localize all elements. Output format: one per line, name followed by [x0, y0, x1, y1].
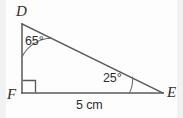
vertex-label-E: E	[167, 85, 176, 100]
right-edge-shade	[177, 0, 183, 118]
angle-label-D: 65°	[25, 35, 44, 48]
geometry-figure: D F E 65° 25° 5 cm	[0, 0, 183, 118]
vertex-label-F: F	[7, 87, 16, 102]
left-edge-shade	[0, 0, 6, 118]
side-length-label-FE: 5 cm	[76, 99, 103, 112]
vertex-label-D: D	[16, 4, 27, 19]
angle-label-E: 25°	[103, 72, 122, 85]
